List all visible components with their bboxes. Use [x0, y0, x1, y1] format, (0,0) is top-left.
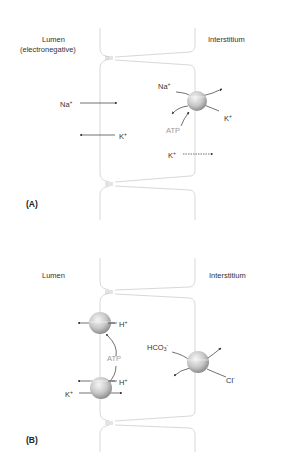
atp-label-a: ATP [166, 126, 180, 135]
diagram-canvas [0, 0, 282, 470]
cell-membrane-a [100, 28, 195, 220]
tight-junction-a [106, 56, 112, 186]
na-apical-label: Na+ [60, 98, 73, 109]
lumen-label-a: Lumen [42, 35, 65, 44]
interstitium-label-a: Interstitium [208, 35, 245, 44]
lumen-label-b: Lumen [42, 271, 65, 280]
h-top-label: H+ [119, 318, 127, 329]
panel-label-a: (A) [26, 199, 38, 209]
panel-label-b: (B) [26, 435, 38, 445]
hco3-label: HCO3- [147, 341, 168, 354]
k-apical-label: K+ [119, 130, 127, 141]
cl-hco3-exchanger [187, 351, 209, 373]
interstitium-label-b: Interstitium [209, 271, 246, 280]
k-bottom-label: K+ [65, 388, 73, 399]
na-k-atpase-pump [187, 91, 207, 111]
atp-label-b: ATP [107, 354, 121, 363]
h-bottom-label: H+ [119, 376, 127, 387]
k-pump-label: K+ [224, 112, 232, 123]
na-pump-label: Na+ [158, 80, 171, 91]
h-k-atpase-pump [90, 377, 112, 399]
lumen-sublabel-a: (electronegative) [20, 45, 76, 54]
cl-label: Cl- [226, 374, 235, 385]
k-channel-label: K+ [168, 149, 176, 160]
h-atpase-pump [89, 312, 111, 334]
